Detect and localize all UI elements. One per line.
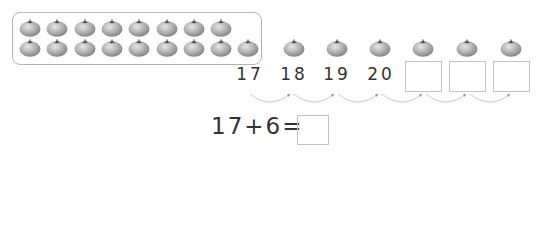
equation-answer-box[interactable] xyxy=(297,115,329,145)
equation-text: 17+6= xyxy=(211,113,303,139)
